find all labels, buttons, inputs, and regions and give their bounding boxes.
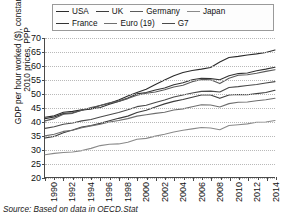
legend-line-euro19 — [104, 23, 117, 24]
source-note: Source: Based on data in OECD.Stat — [3, 205, 138, 214]
x-tick-mark-1998 — [119, 177, 120, 181]
x-tick-mark-2010 — [230, 177, 231, 181]
series-line-uk — [45, 90, 275, 138]
x-tick-mark-2011 — [239, 177, 240, 180]
x-tick-mark-1993 — [73, 177, 74, 180]
y-tick-label-55: 55 — [31, 75, 45, 85]
legend-line-france — [56, 23, 69, 24]
x-tick-mark-2014 — [267, 177, 268, 181]
legend-item-usa: USA — [56, 8, 89, 16]
legend-label-euro19: Euro (19) — [120, 20, 154, 28]
x-tick-mark-2013 — [258, 177, 259, 180]
x-tick-mark-1997 — [110, 177, 111, 180]
gridline-y-25 — [45, 164, 275, 165]
gridline-y-65 — [45, 52, 275, 53]
x-tick-label-1996: 1996 — [104, 182, 114, 202]
x-tick-mark-1996 — [100, 177, 101, 181]
x-tick-label-1992: 1992 — [67, 182, 77, 202]
gridline-y-20 — [45, 178, 275, 179]
series-line-euro-19 — [45, 98, 275, 136]
legend-item-japan: Japan — [187, 8, 225, 16]
legend-item-g7: G7 — [162, 20, 189, 28]
x-tick-mark-1990 — [45, 177, 46, 181]
y-tick-label-20: 20 — [31, 173, 45, 183]
x-tick-label-2002: 2002 — [160, 182, 170, 202]
x-tick-mark-2001 — [147, 177, 148, 180]
x-tick-mark-2008 — [211, 177, 212, 181]
x-tick-mark-2009 — [221, 177, 222, 180]
gridline-y-30 — [45, 150, 275, 151]
gridline-y-45 — [45, 108, 275, 109]
x-tick-label-2006: 2006 — [197, 182, 207, 202]
plot-area-wrapper: 2025303540455055606570199019921994199619… — [44, 38, 275, 178]
legend-label-france: France — [72, 20, 97, 28]
y-tick-label-40: 40 — [31, 117, 45, 127]
x-tick-mark-2000 — [137, 177, 138, 181]
x-tick-mark-1994 — [82, 177, 83, 181]
gridline-y-60 — [45, 66, 275, 67]
x-tick-label-2014: 2014 — [271, 182, 281, 202]
y-tick-label-30: 30 — [31, 145, 45, 155]
legend-item-euro19: Euro (19) — [104, 20, 154, 28]
source-reference: OECD.Stat — [97, 205, 138, 214]
y-tick-label-35: 35 — [31, 131, 45, 141]
x-tick-mark-2002 — [156, 177, 157, 181]
y-tick-label-65: 65 — [31, 47, 45, 57]
y-tick-label-25: 25 — [31, 159, 45, 169]
y-tick-label-70: 70 — [31, 33, 45, 43]
gridline-y-50 — [45, 94, 275, 95]
legend-line-uk — [96, 11, 109, 12]
legend-line-japan — [187, 11, 200, 12]
chart-figure: USA UK Germany Japan France Euro (1 — [0, 0, 284, 217]
legend-line-usa — [56, 11, 69, 12]
legend-label-g7: G7 — [178, 20, 189, 28]
legend-item-germany: Germany — [130, 8, 180, 16]
x-tick-label-1990: 1990 — [49, 182, 59, 202]
y-tick-label-45: 45 — [31, 103, 45, 113]
gridline-y-70 — [45, 38, 275, 39]
x-tick-label-2004: 2004 — [178, 182, 188, 202]
x-tick-mark-1992 — [63, 177, 64, 181]
plot-area: 2025303540455055606570199019921994199619… — [44, 38, 275, 178]
x-tick-mark-2015 — [276, 177, 277, 180]
x-tick-mark-2007 — [202, 177, 203, 180]
legend-label-usa: USA — [72, 8, 89, 16]
x-tick-label-2000: 2000 — [141, 182, 151, 202]
legend-line-germany — [130, 11, 143, 12]
legend-row-2: France Euro (19) G7 — [56, 18, 270, 30]
y-tick-label-50: 50 — [31, 89, 45, 99]
x-tick-label-1998: 1998 — [123, 182, 133, 202]
x-tick-mark-2005 — [184, 177, 185, 180]
gridline-y-35 — [45, 136, 275, 137]
y-tick-label-60: 60 — [31, 61, 45, 71]
x-tick-mark-2012 — [248, 177, 249, 181]
legend-label-germany: Germany — [146, 8, 180, 16]
gridline-y-55 — [45, 80, 275, 81]
x-tick-mark-2006 — [193, 177, 194, 181]
x-tick-label-2012: 2012 — [252, 182, 262, 202]
gridline-y-40 — [45, 122, 275, 123]
legend-label-uk: UK — [112, 8, 123, 16]
legend-label-japan: Japan — [203, 8, 225, 16]
chart-legend: USA UK Germany Japan France Euro (1 — [52, 4, 274, 31]
y-axis-title: GDP per hour worked ($), constant 2010 p… — [14, 0, 33, 134]
x-tick-mark-2003 — [165, 177, 166, 180]
x-tick-mark-1999 — [128, 177, 129, 180]
legend-row-1: USA UK Germany Japan — [56, 6, 270, 18]
x-tick-mark-1991 — [54, 177, 55, 180]
x-tick-mark-1995 — [91, 177, 92, 180]
x-tick-label-2010: 2010 — [234, 182, 244, 202]
x-tick-label-2008: 2008 — [215, 182, 225, 202]
legend-item-uk: UK — [96, 8, 123, 16]
legend-line-g7 — [162, 23, 175, 24]
source-prefix: Source: Based on data in — [3, 205, 97, 214]
x-tick-label-1994: 1994 — [86, 182, 96, 202]
x-tick-mark-2004 — [174, 177, 175, 181]
legend-item-france: France — [56, 20, 97, 28]
